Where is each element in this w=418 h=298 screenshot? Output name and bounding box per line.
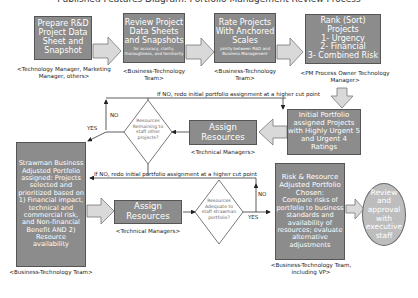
step-initial-portfolio: Initial Portfolio assigned Projects with… — [287, 109, 361, 155]
step-rank-owner: <PM Process Owner Technology Manager> — [300, 70, 390, 84]
decision-adequate-text: Resources Adequate to staff strawman por… — [201, 198, 237, 220]
step-assign1-owner: <Technical Managers> — [183, 149, 263, 156]
step-assign2-text: Assign Resources — [123, 202, 173, 221]
step-strawman: Strawman Business Adjusted Portfolio ass… — [16, 142, 86, 267]
loop-note-2: If NO, redo initial portfolio assignment… — [94, 171, 257, 177]
step-review-owner: <Business-Technology Team> — [114, 68, 194, 82]
step-rate-owner: <Business-Technology Team> — [204, 68, 286, 82]
step-assign2-owner: <Technical Managers> — [108, 228, 188, 235]
step-final-text: Review and approval with executive staff — [363, 189, 405, 241]
step-rate-note: jointly between R&D and Business Managem… — [215, 47, 275, 56]
step-risk-text: Compare risks of portfolio to business s… — [276, 197, 344, 249]
block-arrow-prepare-to-review — [93, 37, 121, 65]
step-prepare-owner: <Technology Manager, Marketing Manager, … — [14, 66, 114, 80]
decision-remaining-yes: YES — [87, 125, 97, 131]
decision-remaining-no: NO — [110, 112, 118, 118]
step-rate: Rate Projects With Anchored Scales joint… — [214, 13, 276, 63]
decision-adequate-yes: YES — [248, 214, 258, 220]
step-initial-text: Initial Portfolio assigned Projects with… — [288, 112, 360, 151]
block-arrow-rate-to-rank — [277, 38, 303, 66]
decision-remaining-text: Resources Remaining to staff other proje… — [130, 118, 166, 140]
loop-note-1: If NO, redo initial portfolio assignment… — [157, 91, 320, 97]
step-assign-resources-2: Assign Resources — [114, 200, 182, 224]
step-strawman-owner: <Business-Technology Team> — [6, 269, 96, 276]
step-review-note: for accuracy, clarity, thoroughness, and… — [124, 47, 184, 56]
block-arrow-initial-to-assign — [259, 119, 287, 145]
step-risk-title: Risk & Resource Adjusted Portfolio Chose… — [276, 174, 344, 197]
step-prepare: Prepare R&D Project Data Sheet and Snaps… — [34, 16, 92, 60]
step-risk-resource: Risk & Resource Adjusted Portfolio Chose… — [275, 163, 345, 260]
step-risk-owner: <Business-Technology Team, including VP> — [268, 262, 354, 276]
step-rank-line5: 3- Combined Risk — [308, 52, 378, 61]
step-assign-resources-1: Assign Resources — [189, 120, 257, 145]
block-arrow-rank-to-initial — [331, 88, 353, 108]
step-final-approval: Review and approval with executive staff — [362, 183, 406, 246]
step-rate-text: Rate Projects With Anchored Scales — [215, 19, 275, 46]
step-strawman-text: Strawman Business Adjusted Portfolio ass… — [17, 160, 85, 249]
block-arrow-review-to-rate — [186, 38, 214, 66]
block-arrow-strawman-to-assign — [87, 198, 114, 224]
step-review: Review Project Data Sheets and Snapshots… — [123, 13, 185, 63]
decision-adequate-no: NO — [258, 191, 266, 197]
step-prepare-text: Prepare R&D Project Data Sheet and Snaps… — [35, 20, 91, 56]
step-assign1-text: Assign Resources — [198, 123, 248, 142]
step-rank: Rank (Sort) Projects 1- Urgency 2- Finan… — [305, 14, 381, 64]
step-review-text: Review Project Data Sheets and Snapshots — [124, 19, 184, 46]
